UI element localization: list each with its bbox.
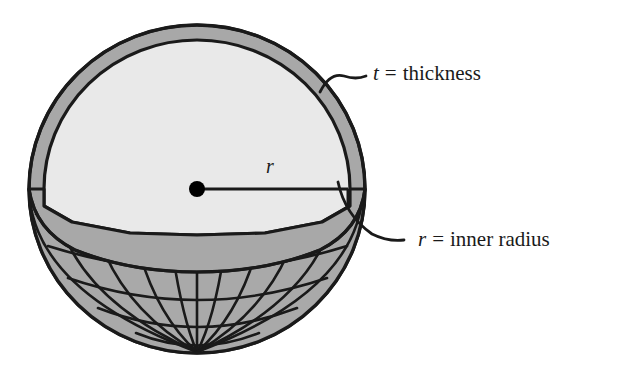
label-inner-radius-variable: r xyxy=(418,227,427,251)
label-inner-radius-equals: = xyxy=(432,227,444,251)
label-radius-marker: r xyxy=(266,155,274,177)
hollow-sphere-diagram: t=thickness r=inner radius r xyxy=(0,0,623,368)
label-thickness-variable: t xyxy=(373,61,380,85)
label-inner-radius: r=inner radius xyxy=(418,227,550,251)
label-thickness: t=thickness xyxy=(373,61,481,85)
center-dot xyxy=(189,181,205,197)
figure-root: t=thickness r=inner radius r xyxy=(0,0,623,368)
label-inner-radius-term: inner radius xyxy=(450,227,550,251)
label-thickness-term: thickness xyxy=(403,61,481,85)
label-thickness-equals: = xyxy=(385,61,397,85)
